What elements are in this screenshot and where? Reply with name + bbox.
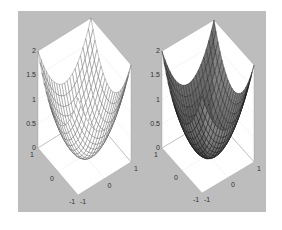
surface-plot-shaded: 00.511.52-101-101 bbox=[150, 20, 261, 203]
x-tick-label: 0 bbox=[108, 182, 112, 189]
z-tick-label: 1.5 bbox=[26, 71, 36, 78]
z-tick-label: 2 bbox=[32, 47, 36, 54]
x-tick-label: 1 bbox=[257, 165, 261, 172]
y-tick-label: 1 bbox=[154, 151, 158, 158]
y-tick-label: 1 bbox=[30, 151, 34, 158]
z-tick-label: 0 bbox=[32, 144, 36, 151]
z-tick-label: 1 bbox=[156, 96, 160, 103]
z-tick-label: 0.5 bbox=[26, 120, 36, 127]
x-tick-label: -1 bbox=[204, 196, 210, 203]
y-tick-label: -1 bbox=[69, 198, 75, 205]
y-tick-label: 0 bbox=[174, 174, 178, 181]
x-tick-label: 1 bbox=[134, 165, 138, 172]
y-tick-label: 0 bbox=[50, 175, 54, 182]
z-tick-label: 1.5 bbox=[150, 71, 160, 78]
surface-plot-mesh: 00.511.52-101-101 bbox=[26, 18, 138, 205]
y-tick-label: -1 bbox=[193, 196, 199, 203]
z-tick-label: 1 bbox=[32, 96, 36, 103]
z-tick-label: 2 bbox=[156, 47, 160, 54]
z-tick-label: 0 bbox=[156, 144, 160, 151]
x-tick-label: 0 bbox=[231, 181, 235, 188]
x-tick-label: -1 bbox=[80, 198, 86, 205]
plots-canvas: 00.511.52-101-101 00.511.52-101-101 bbox=[0, 0, 282, 230]
z-tick-label: 0.5 bbox=[150, 120, 160, 127]
